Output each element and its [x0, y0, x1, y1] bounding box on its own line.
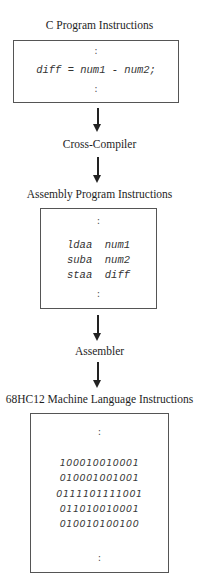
- machine-language-title: 68HC12 Machine Language Instructions: [0, 393, 199, 405]
- c-program-title: C Program Instructions: [0, 19, 199, 31]
- ellipsis-top: :: [31, 428, 168, 438]
- c-code-line: diff = num1 - num2;: [14, 64, 178, 76]
- assembly-line: ldaa num1: [41, 239, 156, 251]
- assembler-label: Assembler: [0, 345, 199, 357]
- machine-code-line: 010010100100: [31, 518, 168, 529]
- assembly-title: Assembly Program Instructions: [0, 188, 199, 200]
- ellipsis-top: :: [41, 217, 156, 227]
- c-program-box: : diff = num1 - num2; :: [13, 40, 179, 103]
- down-arrow-icon: [93, 157, 103, 183]
- machine-code-line: 011010010001: [31, 503, 168, 514]
- ellipsis-bottom: :: [41, 290, 156, 300]
- ellipsis-bottom: :: [14, 85, 178, 95]
- down-arrow-icon: [93, 108, 103, 132]
- assembly-box: : ldaa num1 suba num2 staa diff :: [40, 208, 157, 309]
- machine-code-line: 0111101111001: [31, 488, 168, 499]
- down-arrow-icon: [93, 315, 103, 341]
- machine-language-box: : 100010010001 010001001001 011110111100…: [30, 413, 169, 573]
- down-arrow-icon: [93, 362, 103, 388]
- machine-code-line: 100010010001: [31, 457, 168, 468]
- ellipsis-top: :: [14, 47, 178, 57]
- assembly-line: staa diff: [41, 269, 156, 281]
- machine-code-line: 010001001001: [31, 472, 168, 483]
- assembly-line: suba num2: [41, 254, 156, 266]
- cross-compiler-label: Cross-Compiler: [0, 138, 199, 150]
- ellipsis-bottom: :: [31, 554, 168, 564]
